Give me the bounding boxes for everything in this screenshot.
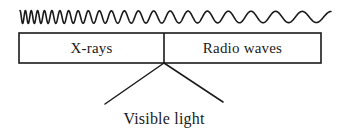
callout-right-leader-line: [164, 63, 223, 102]
callout-left-leader-line: [105, 63, 164, 104]
visible-light-label: Visible light: [94, 110, 234, 128]
spectrum-diagram-figure: X-rays Radio waves Visible light: [0, 0, 339, 136]
spectrum-cell-label-x-rays: X-rays: [19, 40, 164, 56]
frequency-gradient-wave-icon: [20, 11, 331, 24]
spectrum-cell-label-radio-waves: Radio waves: [164, 40, 321, 56]
